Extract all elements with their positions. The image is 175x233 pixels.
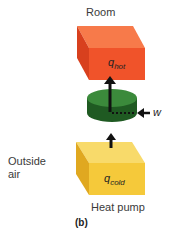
outside-label-line2: air	[8, 168, 20, 180]
work-label: w	[153, 106, 161, 118]
heat-pump-label: Heat pump	[91, 201, 145, 213]
q-cold-subscript: cold	[110, 178, 125, 187]
engine-cylinder	[87, 89, 137, 122]
outside-label-line1: Outside	[8, 155, 46, 167]
q-cold-label: qcold	[104, 172, 125, 187]
hot-reservoir-box	[77, 26, 145, 80]
q-hot-subscript: hot	[114, 62, 125, 71]
figure-caption: (b)	[75, 217, 88, 228]
heat-pump-diagram: Room	[0, 0, 175, 233]
q-hot-label: qhot	[108, 56, 125, 71]
diagram-graphics	[0, 0, 175, 233]
